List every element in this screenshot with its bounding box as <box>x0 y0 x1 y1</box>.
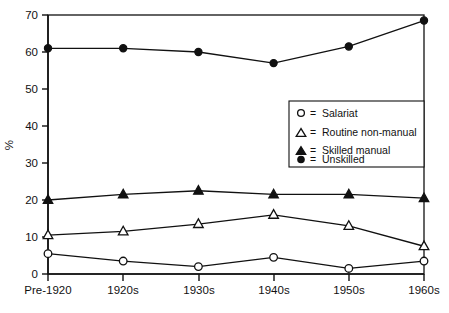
legend-equals-3: = <box>310 153 316 165</box>
y-tick-label-60: 60 <box>25 46 38 58</box>
x-tick-label-1940s: 1940s <box>258 284 290 296</box>
series-unskilled <box>44 17 427 67</box>
datapoint-routine-non-manual-1940s <box>269 210 279 219</box>
datapoint-skilled-manual-1920s <box>118 189 128 198</box>
legend-label-unskilled: Unskilled <box>322 153 365 165</box>
series-line-salariat <box>48 254 424 269</box>
legend-equals-1: = <box>310 126 316 138</box>
datapoint-unskilled-1940s <box>270 60 277 67</box>
series-salariat <box>44 250 428 272</box>
datapoint-salariat-1920s <box>119 257 127 265</box>
legend-equals-0: = <box>310 107 316 119</box>
datapoint-unskilled-1950s <box>345 43 352 50</box>
y-tick-label-70: 70 <box>25 9 38 21</box>
datapoint-unskilled-1920s <box>120 45 127 52</box>
datapoint-skilled-manual-1930s <box>194 186 204 195</box>
legend-label-salariat: Salariat <box>322 107 358 119</box>
series-routine-non-manual <box>43 210 429 250</box>
datapoint-salariat-1940s <box>270 254 278 262</box>
y-tick-label-0: 0 <box>32 268 38 280</box>
x-tick-label-pre-1920: Pre-1920 <box>24 284 71 296</box>
y-tick-labels: 0 10 20 30 40 50 60 70 <box>25 9 38 280</box>
datapoint-skilled-manual-1950s <box>344 189 354 198</box>
datapoint-unskilled-1960s <box>420 17 427 24</box>
series-line-skilled-manual <box>48 191 424 200</box>
datapoint-skilled-manual-1960s <box>419 193 429 202</box>
datapoint-routine-non-manual-pre-1920 <box>43 230 53 239</box>
legend-filled-circle-icon <box>298 156 304 162</box>
legend-open-circle-icon <box>298 110 305 117</box>
x-tick-label-1960s: 1960s <box>408 284 440 296</box>
series-line-routine-non-manual <box>48 215 424 246</box>
x-tick-label-1950s: 1950s <box>333 284 365 296</box>
y-tick-label-40: 40 <box>25 120 38 132</box>
datapoint-salariat-pre-1920 <box>44 250 52 258</box>
y-tick-label-10: 10 <box>25 231 38 243</box>
chart-canvas: 0 10 20 30 40 50 60 70 % Pre-1920 1920s … <box>0 0 449 313</box>
y-tick-label-50: 50 <box>25 83 38 95</box>
series-skilled-manual <box>43 186 429 204</box>
chart-legend: = Salariat = Routine non-manual = Skille… <box>289 101 424 167</box>
y-axis-title: % <box>3 140 15 150</box>
y-tick-label-20: 20 <box>25 194 38 206</box>
line-chart: 0 10 20 30 40 50 60 70 % Pre-1920 1920s … <box>0 0 449 313</box>
datapoint-skilled-manual-1940s <box>269 189 279 198</box>
x-tick-label-1920s: 1920s <box>107 284 139 296</box>
series-line-unskilled <box>48 21 424 64</box>
legend-label-routine-non-manual: Routine non-manual <box>322 126 417 138</box>
datapoint-salariat-1960s <box>420 257 428 265</box>
x-tick-labels: Pre-1920 1920s 1930s 1940s 1950s 1960s <box>24 284 440 296</box>
datapoint-salariat-1930s <box>195 263 203 271</box>
x-tick-label-1930s: 1930s <box>183 284 215 296</box>
x-tick-marks <box>48 274 424 281</box>
datapoint-unskilled-1930s <box>195 48 202 55</box>
y-tick-label-30: 30 <box>25 157 38 169</box>
datapoint-unskilled-pre-1920 <box>44 45 51 52</box>
datapoint-salariat-1950s <box>345 265 353 273</box>
